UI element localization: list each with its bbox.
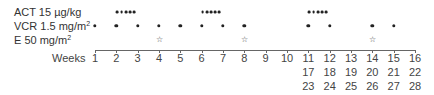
e-dose-star-icon: ☆ [156, 36, 163, 44]
week-tick-label: 26 [366, 80, 378, 92]
vcr-dose-dot-icon [179, 24, 182, 27]
week-tick-label: 21 [388, 66, 400, 78]
week-tick-label: 24 [324, 80, 336, 92]
vcr-dose-dot-icon [93, 24, 96, 27]
week-tick-label: 9 [263, 52, 269, 64]
vcr-dose-dot-icon [243, 24, 246, 27]
week-tick-label: 15 [388, 52, 400, 64]
vcr-dose-dot-icon [157, 24, 160, 27]
act-dose-dot-icon [129, 11, 132, 14]
act-dose-dot-icon [325, 11, 328, 14]
week-tick-label: 5 [177, 52, 183, 64]
week-tick-label: 12 [324, 52, 336, 64]
row-label-vcr: VCR 1.5 mg/m2 [14, 20, 90, 32]
week-tick-label: 27 [388, 80, 400, 92]
vcr-dose-dot-icon [371, 24, 374, 27]
act-dose-dot-icon [124, 11, 127, 14]
row-label-act-text: ACT 15 µg/kg [14, 6, 81, 18]
week-tick-label: 28 [409, 80, 421, 92]
week-tick-label: 16 [409, 52, 421, 64]
vcr-dose-dot-icon [392, 24, 395, 27]
week-tick-label: 19 [345, 66, 357, 78]
act-dose-dot-icon [205, 11, 208, 14]
weeks-axis-label: Weeks [52, 52, 85, 64]
row-label-e-sup: 2 [67, 34, 71, 41]
vcr-dose-dot-icon [328, 24, 331, 27]
act-dose-dot-icon [201, 11, 204, 14]
vcr-dose-dot-icon [221, 24, 224, 27]
vcr-dose-dot-icon [200, 24, 203, 27]
act-dose-dot-icon [308, 11, 311, 14]
week-tick-label: 8 [241, 52, 247, 64]
vcr-dose-dot-icon [307, 24, 310, 27]
week-tick-label: 22 [409, 66, 421, 78]
week-tick-label: 7 [220, 52, 226, 64]
row-label-e-text: E 50 mg/m [14, 34, 67, 46]
week-tick-label: 18 [324, 66, 336, 78]
row-label-act: ACT 15 µg/kg [14, 6, 81, 18]
act-dose-dot-icon [120, 11, 123, 14]
week-tick-label: 4 [156, 52, 162, 64]
act-dose-dot-icon [316, 11, 319, 14]
act-dose-dot-icon [214, 11, 217, 14]
act-dose-dot-icon [116, 11, 119, 14]
row-label-e: E 50 mg/m2 [14, 34, 71, 46]
week-tick-label: 1 [92, 52, 98, 64]
week-tick-label: 6 [199, 52, 205, 64]
week-tick-label: 11 [303, 52, 314, 64]
week-tick-label: 17 [302, 66, 314, 78]
act-dose-dot-icon [312, 11, 315, 14]
week-tick-label: 14 [366, 52, 378, 64]
act-dose-dot-icon [218, 11, 221, 14]
row-label-vcr-sup: 2 [86, 20, 90, 27]
vcr-dose-dot-icon [115, 24, 118, 27]
act-dose-dot-icon [210, 11, 213, 14]
week-tick-label: 13 [345, 52, 357, 64]
row-label-vcr-text: VCR 1.5 mg/m [14, 20, 86, 32]
e-dose-star-icon: ☆ [369, 36, 376, 44]
week-tick-label: 3 [135, 52, 141, 64]
week-tick-label: 23 [302, 80, 314, 92]
week-tick-label: 2 [113, 52, 119, 64]
week-tick-label: 25 [345, 80, 357, 92]
act-dose-dot-icon [133, 11, 136, 14]
e-dose-star-icon: ☆ [241, 36, 248, 44]
week-tick-label: 10 [281, 52, 293, 64]
weeks-axis-line [95, 50, 415, 51]
week-tick-label: 20 [366, 66, 378, 78]
vcr-dose-dot-icon [136, 24, 139, 27]
act-dose-dot-icon [321, 11, 324, 14]
